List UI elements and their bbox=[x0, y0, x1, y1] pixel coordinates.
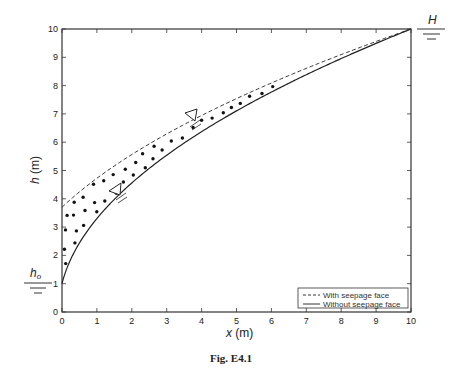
free-surface-marker-lower bbox=[109, 183, 127, 203]
h-upstream-label: H bbox=[428, 13, 437, 27]
y-tick-label: 0 bbox=[53, 307, 58, 317]
y-tick-label: 4 bbox=[53, 194, 58, 204]
ho-label: ho bbox=[30, 266, 42, 281]
y-tick-label: 7 bbox=[53, 109, 58, 119]
y-tick-label: 1 bbox=[53, 279, 58, 289]
y-tick-label: 3 bbox=[53, 222, 58, 232]
series-with-seepage-face bbox=[62, 29, 411, 207]
x-tick-label: 5 bbox=[234, 316, 239, 326]
figure-caption: Fig. E4.1 bbox=[210, 352, 252, 364]
seepage-chart: 012345678910012345678910 H ho x (m) h (m… bbox=[0, 0, 463, 380]
y-tick-label: 6 bbox=[53, 137, 58, 147]
y-tick-label: 5 bbox=[53, 166, 58, 176]
y-axis-label: h (m) bbox=[28, 156, 42, 184]
x-tick-label: 10 bbox=[406, 316, 416, 326]
x-tick-label: 7 bbox=[304, 316, 309, 326]
seepage-zone-dots bbox=[63, 85, 275, 265]
y-tick-label: 10 bbox=[48, 24, 58, 34]
x-tick-label: 4 bbox=[199, 316, 204, 326]
legend: With seepage face Without seepage face bbox=[298, 288, 408, 309]
x-tick-label: 0 bbox=[59, 316, 64, 326]
legend-without-seepage: Without seepage face bbox=[323, 300, 401, 309]
x-axis-label: x (m) bbox=[225, 326, 253, 340]
x-tick-label: 8 bbox=[339, 316, 344, 326]
x-tick-label: 3 bbox=[164, 316, 169, 326]
x-tick-label: 2 bbox=[129, 316, 134, 326]
y-tick-label: 9 bbox=[53, 52, 58, 62]
legend-with-seepage: With seepage face bbox=[323, 291, 390, 300]
x-tick-label: 9 bbox=[374, 316, 379, 326]
y-tick-label: 8 bbox=[53, 81, 58, 91]
water-level-marker-ho: ho bbox=[24, 266, 52, 293]
water-level-marker-H: H bbox=[417, 13, 445, 39]
x-tick-label: 6 bbox=[269, 316, 274, 326]
x-tick-label: 1 bbox=[94, 316, 99, 326]
series-without-seepage-face bbox=[62, 29, 411, 284]
curves bbox=[62, 29, 411, 284]
axes: 012345678910012345678910 bbox=[48, 24, 416, 326]
y-tick-label: 2 bbox=[53, 250, 58, 260]
